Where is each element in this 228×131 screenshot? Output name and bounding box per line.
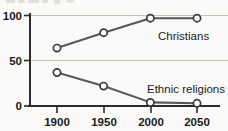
x-tick-label-1950: 1950 <box>91 116 117 128</box>
x-tick-label-2000: 2000 <box>138 116 164 128</box>
y-tick-label-50: 50 <box>9 55 22 67</box>
data-point <box>100 29 107 36</box>
data-point <box>100 82 107 89</box>
y-tick-label-100: 100 <box>3 10 22 22</box>
x-tick-label-1900: 1900 <box>44 116 70 128</box>
series-label-christians: Christians <box>158 30 209 42</box>
y-tick-label-0: 0 <box>16 100 22 112</box>
line-chart: 100 50 0 1900 1950 2000 2050 Christians … <box>0 0 228 131</box>
data-point <box>147 15 154 22</box>
x-tick-label-2050: 2050 <box>184 116 210 128</box>
data-point <box>53 69 60 76</box>
chart-canvas: 100 50 0 1900 1950 2000 2050 Christians … <box>0 0 228 131</box>
data-point <box>193 100 200 107</box>
data-point <box>193 15 200 22</box>
data-point <box>53 44 60 51</box>
series-label-ethnic-religions: Ethnic religions <box>147 83 225 95</box>
data-point <box>147 99 154 106</box>
